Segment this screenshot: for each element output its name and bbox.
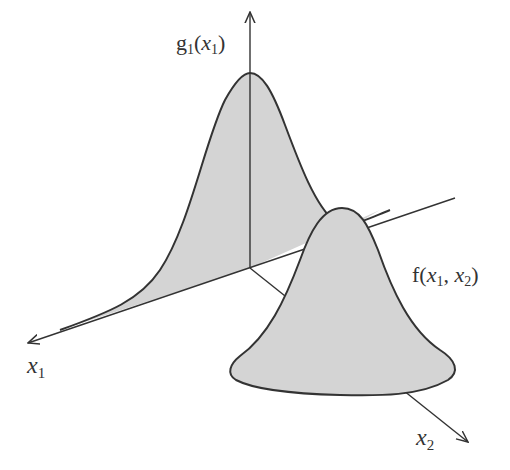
x2-axis-label: x2 [415,424,434,453]
density-diagram: g1(x1) f(x1, x2) x1 x2 [0,0,510,470]
f-label: f(x1, x2) [412,262,479,289]
g1-label: g1(x1) [176,30,225,57]
x1-axis-label: x1 [26,352,45,381]
